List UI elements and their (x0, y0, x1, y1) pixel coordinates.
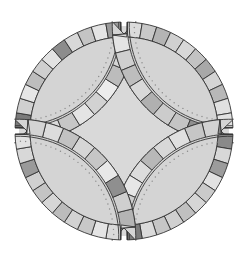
stitch-dot (222, 141, 223, 142)
stitch-dot (187, 150, 188, 151)
stitch-dot (192, 112, 193, 113)
stitch-dot (206, 117, 207, 118)
stitch-dot (64, 108, 65, 109)
stitch-dot (217, 141, 218, 142)
stitch-dot (173, 102, 174, 103)
stitch-dot (35, 142, 36, 143)
stitch-dot (20, 141, 21, 142)
stitch-dot (211, 142, 212, 143)
stitch-dot (138, 208, 139, 209)
stitch-dot (169, 162, 170, 163)
stitch-dot (85, 169, 86, 170)
stitch-dot (162, 92, 163, 93)
stitch-dot (201, 116, 202, 117)
stitch-dot (25, 141, 26, 142)
stitch-dot (182, 108, 183, 109)
stitch-dot (73, 102, 74, 103)
stitch-dot (55, 112, 56, 113)
stitch-dot (173, 159, 174, 160)
stitch-dot (45, 145, 46, 146)
stitch-dot (136, 213, 137, 214)
stitch-dot (89, 172, 90, 173)
stitch-dot (69, 156, 70, 157)
stitch-dot (69, 105, 70, 106)
stitch-dot (113, 234, 114, 235)
stitch-dot (55, 148, 56, 149)
stitch-dot (77, 99, 78, 100)
stitch-dot (227, 141, 228, 142)
stitch-dot (113, 229, 114, 230)
stitch-dot (196, 114, 197, 115)
stitch-dot (98, 76, 99, 77)
stitch-dot (135, 42, 136, 43)
stitch-dot (110, 213, 111, 214)
stitch-dot (146, 71, 147, 72)
stitch-dot (138, 52, 139, 53)
stitch-dot (134, 37, 135, 38)
stitch-dot (95, 180, 96, 181)
stitch-dot (85, 92, 86, 93)
stitch-dot (136, 47, 137, 48)
stitch-dot (95, 80, 96, 81)
stitch-dot (139, 203, 140, 204)
stitch-dot (101, 71, 102, 72)
stitch-dot (196, 146, 197, 147)
stitch-dot (40, 143, 41, 144)
stitch-dot (149, 76, 150, 77)
stitch-dot (149, 185, 150, 186)
stitch-dot (103, 67, 104, 68)
stitch-dot (109, 208, 110, 209)
stitch-dot (182, 153, 183, 154)
stitch-dot (155, 84, 156, 85)
stitch-dot (155, 176, 156, 177)
stitch-dot (169, 99, 170, 100)
stitch-dot (105, 199, 106, 200)
stitch-dot (178, 156, 179, 157)
stitch-dot (152, 80, 153, 81)
stitch-dot (158, 88, 159, 89)
stitch-dot (162, 169, 163, 170)
stitch-dot (81, 165, 82, 166)
stitch-dot (35, 118, 36, 119)
stitch-dot (60, 150, 61, 151)
stitch-dot (211, 118, 212, 119)
stitch-dot (89, 88, 90, 89)
stitch-dot (134, 32, 135, 33)
stitch-dot (178, 105, 179, 106)
stitch-dot (77, 162, 78, 163)
stitch-dot (103, 194, 104, 195)
stitch-dot (139, 57, 140, 58)
stitch-dot (98, 185, 99, 186)
stitch-dot (143, 67, 144, 68)
stitch-dot (141, 62, 142, 63)
stitch-dot (165, 165, 166, 166)
stitch-dot (30, 141, 31, 142)
stitch-dot (101, 189, 102, 190)
stitch-dot (112, 224, 113, 225)
stitch-dot (73, 159, 74, 160)
stitch-dot (192, 148, 193, 149)
stitch-dot (107, 57, 108, 58)
stitch-dot (187, 110, 188, 111)
stitch-dot (110, 47, 111, 48)
stitch-dot (40, 117, 41, 118)
stitch-dot (111, 42, 112, 43)
stitch-dot (152, 180, 153, 181)
stitch-dot (50, 146, 51, 147)
stitch-dot (111, 218, 112, 219)
stitch-dot (92, 84, 93, 85)
stitch-dot (60, 110, 61, 111)
stitch-dot (141, 199, 142, 200)
stitch-dot (64, 153, 65, 154)
stitch-dot (50, 114, 51, 115)
stitch-dot (135, 218, 136, 219)
stitch-dot (134, 27, 135, 28)
stitch-dot (165, 96, 166, 97)
stitch-dot (158, 172, 159, 173)
stitch-dot (92, 176, 93, 177)
stitch-dot (81, 96, 82, 97)
stitch-dot (206, 143, 207, 144)
quilt-block-illustration (0, 0, 247, 263)
stitch-dot (143, 194, 144, 195)
stitch-dot (107, 203, 108, 204)
